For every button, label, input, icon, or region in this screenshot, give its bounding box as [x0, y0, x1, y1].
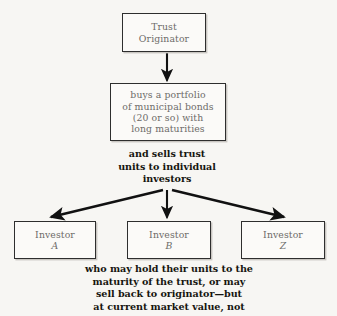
hold-units-line-4: at current market value, not — [53, 301, 285, 314]
sells-units-line-2: units to individual — [77, 161, 257, 174]
node-trust-originator: Trust Originator — [122, 13, 206, 52]
investor-b-letter: B — [166, 240, 173, 251]
investor-a-label: Investor — [35, 229, 75, 240]
node-investor-z: Investor Z — [241, 221, 325, 259]
sells-units-line-3: investors — [77, 173, 257, 186]
node-investor-a: Investor A — [14, 221, 96, 259]
trust-originator-line-2: Originator — [139, 33, 189, 44]
investor-b-label: Investor — [149, 229, 189, 240]
portfolio-line-2: of municipal bonds — [122, 101, 213, 112]
caption-hold-units-to-maturity: who may hold their units to the maturity… — [53, 263, 285, 313]
node-investor-b: Investor B — [127, 221, 211, 259]
trust-flow-diagram: Trust Originator buys a portfolio of mun… — [0, 0, 337, 316]
portfolio-line-1: buys a portfolio — [130, 89, 205, 100]
sells-units-line-1: and sells trust — [77, 148, 257, 161]
arrow-trust-to-investor-a — [51, 190, 163, 217]
investor-a-letter: A — [52, 240, 59, 251]
trust-originator-line-1: Trust — [151, 21, 177, 32]
caption-sells-trust-units: and sells trust units to individual inve… — [77, 148, 257, 186]
hold-units-line-3: sell back to originator—but — [53, 288, 285, 301]
investor-z-label: Investor — [263, 229, 303, 240]
hold-units-line-1: who may hold their units to the — [53, 263, 285, 276]
node-buys-portfolio: buys a portfolio of municipal bonds (20 … — [110, 83, 226, 141]
investor-z-letter: Z — [280, 240, 287, 251]
arrow-trust-to-investor-z — [172, 190, 284, 217]
portfolio-line-3: (20 or so) with — [133, 112, 204, 123]
portfolio-line-4: long maturities — [131, 123, 204, 134]
hold-units-line-2: maturity of the trust, or may — [53, 276, 285, 289]
